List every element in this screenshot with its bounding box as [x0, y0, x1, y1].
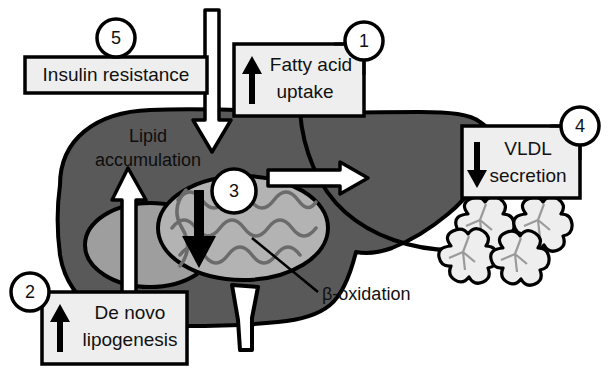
callout-number-4: 4 — [575, 116, 585, 136]
box-vldl-secretion[interactable]: VLDL secretion 4 — [462, 107, 599, 198]
callout-number-5: 5 — [111, 28, 121, 48]
callout-number-1: 1 — [359, 31, 369, 51]
fatty-acid-uptake-label-line1: Fatty acid — [270, 54, 352, 75]
box-insulin-resistance[interactable]: Insulin resistance 5 — [25, 19, 207, 93]
de-novo-lipogenesis-label-line2: lipogenesis — [82, 329, 177, 350]
vldl-particle — [491, 231, 549, 286]
bile-duct — [232, 285, 258, 350]
lipid-accumulation-label-line1: Lipid — [129, 126, 167, 146]
beta-oxidation-label: β-oxidation — [322, 284, 410, 304]
insulin-resistance-label: Insulin resistance — [43, 64, 190, 85]
vldl-secretion-label-line1: VLDL — [504, 138, 552, 159]
figure-canvas: β-oxidation Lipid accumulation — [0, 0, 611, 392]
callout-number-3: 3 — [229, 181, 239, 201]
callout-number-2: 2 — [25, 282, 35, 302]
vldl-particle — [439, 229, 497, 284]
vldl-particles — [439, 197, 572, 286]
lipid-accumulation-label-line2: accumulation — [95, 150, 201, 170]
callout-3-group[interactable]: 3 — [212, 169, 256, 213]
fatty-acid-uptake-label-line2: uptake — [276, 81, 333, 102]
vldl-secretion-label-line2: secretion — [489, 165, 566, 186]
de-novo-lipogenesis-label-line1: De novo — [95, 302, 166, 323]
box-fatty-acid-uptake[interactable]: Fatty acid uptake 1 — [234, 22, 383, 116]
